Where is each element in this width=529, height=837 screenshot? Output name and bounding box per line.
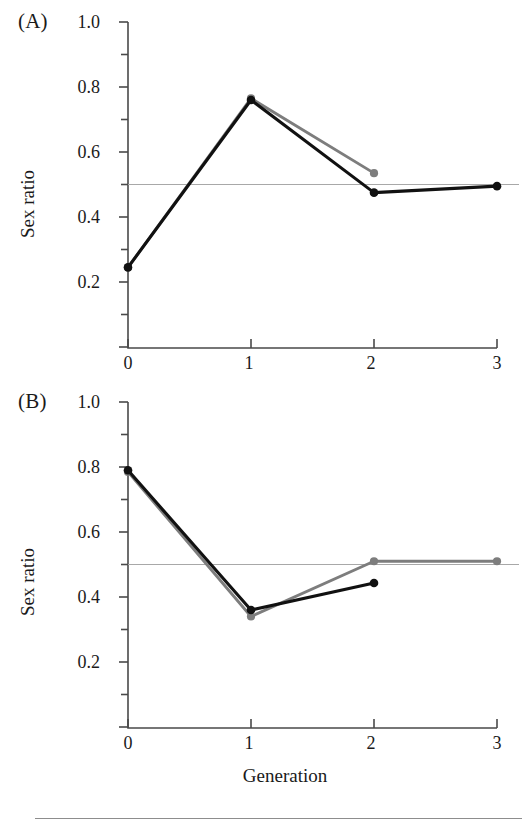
data-point-black-gen0 bbox=[124, 263, 133, 272]
panel-a-ytick-1.0: 1.0 bbox=[60, 12, 100, 33]
data-point-black-gen2 bbox=[370, 579, 379, 588]
panel-a-ytick-0.4: 0.4 bbox=[60, 207, 100, 228]
panel-a-ytick-0.8: 0.8 bbox=[60, 77, 100, 98]
figure-sex-ratio-by-generation: (A) Sex ratio 1.0 0.8 0.6 0.4 0.2 0 1 2 … bbox=[0, 0, 529, 837]
panel-b-ytick-1.0: 1.0 bbox=[60, 392, 100, 413]
panel-b-ytick-0.2: 0.2 bbox=[60, 652, 100, 673]
panel-a-ytick-0.6: 0.6 bbox=[60, 142, 100, 163]
panel-b-ytick-0.6: 0.6 bbox=[60, 522, 100, 543]
data-point-black-gen0 bbox=[124, 466, 133, 475]
data-point-gray-gen2 bbox=[370, 169, 378, 177]
panel-b-xtick-1: 1 bbox=[234, 733, 264, 754]
series-line-gray bbox=[128, 98, 374, 267]
panel-b-xtick-3: 3 bbox=[482, 733, 512, 754]
data-point-gray-gen3 bbox=[493, 557, 501, 565]
data-point-black-gen1 bbox=[247, 96, 256, 105]
panel-a-y-axis-title: Sex ratio bbox=[17, 144, 39, 238]
panel-b-ytick-0.8: 0.8 bbox=[60, 457, 100, 478]
panel-b-xtick-0: 0 bbox=[113, 733, 143, 754]
panel-a-xtick-3: 3 bbox=[482, 353, 512, 374]
series-line-black bbox=[128, 470, 374, 610]
panel-a-label: (A) bbox=[18, 9, 48, 34]
panel-a-xtick-2: 2 bbox=[356, 353, 386, 374]
panel-b-label: (B) bbox=[18, 389, 47, 414]
panel-b-xtick-2: 2 bbox=[356, 733, 386, 754]
data-point-black-gen3 bbox=[493, 182, 502, 191]
panel-b: (B) Sex ratio 1.0 0.8 0.6 0.4 0.2 0 1 2 … bbox=[0, 380, 529, 837]
panel-a-xtick-0: 0 bbox=[113, 353, 143, 374]
footer-divider bbox=[35, 818, 522, 819]
panel-b-ytick-0.4: 0.4 bbox=[60, 587, 100, 608]
panel-b-x-axis-title: Generation bbox=[185, 765, 385, 787]
data-point-gray-gen2 bbox=[370, 557, 378, 565]
panel-a: (A) Sex ratio 1.0 0.8 0.6 0.4 0.2 0 1 2 … bbox=[0, 0, 529, 400]
panel-a-xtick-1: 1 bbox=[234, 353, 264, 374]
panel-a-ytick-0.2: 0.2 bbox=[60, 272, 100, 293]
data-point-black-gen1 bbox=[247, 606, 256, 615]
series-line-gray bbox=[128, 472, 497, 617]
panel-a-plot-area bbox=[0, 0, 529, 400]
series-line-black bbox=[128, 100, 497, 267]
data-point-black-gen2 bbox=[370, 188, 379, 197]
panel-b-y-axis-title: Sex ratio bbox=[17, 522, 39, 616]
panel-b-plot-area bbox=[0, 380, 529, 780]
